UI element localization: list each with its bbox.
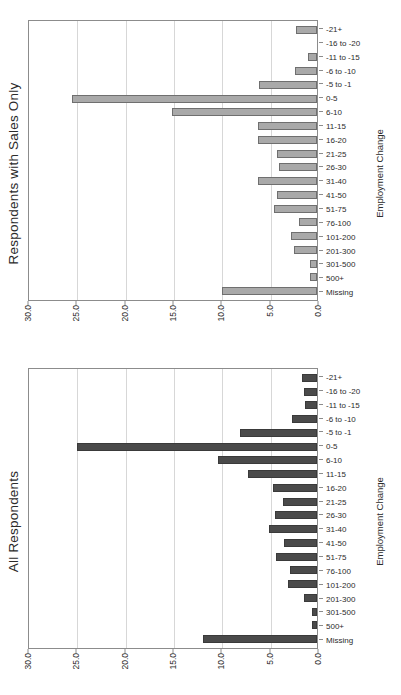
y-axis-tick-mark — [173, 649, 174, 653]
x-axis-tick-mark — [319, 28, 323, 29]
x-axis-tick-mark — [319, 501, 323, 502]
bar — [312, 621, 317, 629]
y-axis-tick-mark — [124, 301, 125, 305]
x-axis-tick-mark — [319, 166, 323, 167]
y-axis-tick-label: 5.0 — [265, 305, 275, 317]
x-axis-tick-label: -21+ — [326, 25, 342, 34]
x-axis-tick-mark — [319, 528, 323, 529]
x-axis-tick-mark — [319, 459, 323, 460]
x-axis-tick-label: 6-10 — [326, 108, 342, 117]
bar — [304, 594, 317, 602]
x-axis-tick-label: 51-75 — [326, 553, 346, 562]
bar-cell — [29, 454, 317, 468]
bar-cell — [29, 243, 317, 257]
chart-title: Respondents with Sales Only — [6, 0, 21, 347]
y-axis-tick-label: 15.0 — [168, 653, 178, 670]
x-axis-tick-mark — [319, 291, 323, 292]
bar-cell — [29, 133, 317, 147]
x-axis-tick-label: -6 to -10 — [326, 414, 356, 423]
y-axis-tick-label: 20.0 — [120, 305, 130, 322]
plot-area — [28, 368, 318, 649]
bar-cell — [29, 161, 317, 175]
x-axis-tick-label: 301-500 — [326, 260, 355, 269]
bar — [310, 260, 317, 268]
x-axis-tick-mark — [319, 487, 323, 488]
x-axis-title: Employment Change — [374, 348, 385, 695]
y-axis-tick-label: 10.0 — [216, 305, 226, 322]
x-axis-tick-label: 31-40 — [326, 525, 346, 534]
bar-cell — [29, 591, 317, 605]
bar-cell — [29, 202, 317, 216]
y-axis-tick-label: 30.0 — [23, 305, 33, 322]
x-axis-tick-label: -21+ — [326, 373, 342, 382]
bar-cell — [29, 37, 317, 51]
x-axis-tick-mark — [319, 277, 323, 278]
x-axis-tick-label: 301-500 — [326, 608, 355, 617]
chart-bottom: All Respondents 0.05.010.015.020.025.030… — [0, 348, 401, 695]
bar — [203, 635, 317, 643]
bar — [302, 374, 317, 382]
x-axis-tick-mark — [319, 111, 323, 112]
x-axis-tick-mark — [319, 514, 323, 515]
x-axis-tick-label: 76-100 — [326, 218, 351, 227]
x-axis-tick-label: 21-25 — [326, 149, 346, 158]
x-axis-tick-mark — [319, 194, 323, 195]
bar-cell — [29, 495, 317, 509]
x-axis-tick-mark — [319, 431, 323, 432]
bar — [274, 205, 317, 213]
y-axis-tick-mark — [221, 301, 222, 305]
x-axis-tick-mark — [319, 404, 323, 405]
bar — [240, 429, 317, 437]
x-axis-tick-mark — [319, 42, 323, 43]
bar-cell — [29, 284, 317, 298]
y-axis: 0.05.010.015.020.025.030.0Percent — [28, 649, 318, 695]
bar — [308, 53, 317, 61]
bar-cell — [29, 399, 317, 413]
y-axis-tick-label: 15.0 — [168, 305, 178, 322]
bar-cell — [29, 92, 317, 106]
bar-cell — [29, 605, 317, 619]
bar — [291, 232, 317, 240]
x-axis-tick-label: 11-15 — [326, 121, 346, 130]
bar-cell — [29, 216, 317, 230]
bar-cell — [29, 550, 317, 564]
x-axis-tick-mark — [319, 556, 323, 557]
y-axis-tick-mark — [173, 301, 174, 305]
x-axis-tick-mark — [319, 153, 323, 154]
bar-cell — [29, 619, 317, 633]
y-axis-tick-mark — [28, 649, 29, 653]
x-axis-tick-label: -6 to -10 — [326, 66, 356, 75]
bar — [77, 443, 317, 451]
bar — [279, 163, 317, 171]
x-axis-tick-label: 16-20 — [326, 135, 346, 144]
x-axis-tick-mark — [319, 56, 323, 57]
x-axis-tick-label: 41-50 — [326, 191, 346, 200]
y-axis-tick-mark — [269, 649, 270, 653]
bar-cell — [29, 23, 317, 37]
x-axis-tick-label: 51-75 — [326, 205, 346, 214]
chart-top: Respondents with Sales Only 0.05.010.015… — [0, 0, 401, 347]
bar-cell — [29, 509, 317, 523]
x-axis-tick-mark — [319, 584, 323, 585]
x-axis-tick-mark — [319, 611, 323, 612]
x-axis-tick-mark — [319, 139, 323, 140]
y-axis-tick-label: 5.0 — [265, 653, 275, 665]
bar — [72, 95, 317, 103]
bar — [299, 218, 317, 226]
x-axis-tick-label: 76-100 — [326, 566, 351, 575]
bar — [277, 191, 317, 199]
x-axis-tick-mark — [319, 639, 323, 640]
bar-cell — [29, 51, 317, 65]
y-axis-tick-mark — [318, 301, 319, 305]
x-axis-tick-label: 21-25 — [326, 497, 346, 506]
bar — [269, 525, 317, 533]
y-axis-tick-label: 30.0 — [23, 653, 33, 670]
bar — [310, 273, 317, 281]
x-axis-tick-mark — [319, 418, 323, 419]
x-axis-tick-label: 16-20 — [326, 483, 346, 492]
bar — [172, 108, 317, 116]
x-axis-tick-label: Missing — [326, 636, 353, 645]
y-axis-tick-mark — [76, 301, 77, 305]
bar — [258, 177, 317, 185]
x-axis-title: Employment Change — [374, 0, 385, 347]
